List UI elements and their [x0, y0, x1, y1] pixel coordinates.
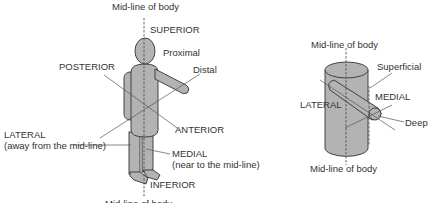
anterior-label: ANTERIOR	[175, 124, 224, 135]
lateral-note-label: (away from the mid-line)	[4, 140, 106, 151]
right-lateral-label: LATERAL	[300, 99, 342, 110]
left-leg	[129, 132, 140, 174]
superior-label: SUPERIOR	[150, 24, 200, 35]
right-midline-bottom-label: Mid-line of body	[310, 163, 377, 174]
deep-label: Deep	[405, 117, 428, 128]
torso	[131, 64, 158, 137]
distal-label: Distal	[193, 64, 217, 75]
cylinder-top	[325, 62, 368, 78]
superficial-label: Superficial	[377, 61, 421, 72]
posterior-label: POSTERIOR	[59, 61, 115, 72]
right-midline-top-label: Mid-line of body	[311, 39, 378, 50]
midline-bottom-label: Mid-line of body	[105, 198, 172, 203]
right-medial-label: MEDIAL	[375, 91, 410, 102]
medial-note-label: (near to the mid-line)	[172, 159, 260, 170]
proximal-label: Proximal	[163, 47, 200, 58]
lateral-label: LATERAL	[4, 129, 46, 140]
midline-top-label: Mid-line of body	[112, 1, 179, 12]
inferior-label: INFERIOR	[150, 179, 196, 190]
anatomical-terms-diagram: Mid-line of body SUPERIOR Proximal Dista…	[0, 0, 430, 203]
superficial-leader	[370, 73, 392, 88]
medial-label: MEDIAL	[172, 148, 207, 159]
head	[135, 38, 155, 64]
right-arm	[155, 69, 189, 94]
